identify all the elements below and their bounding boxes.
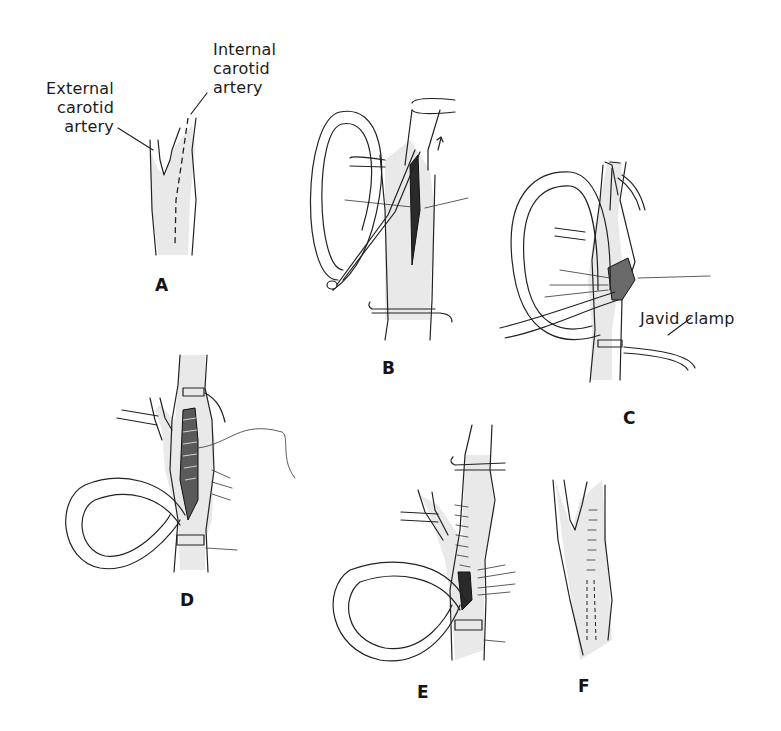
panel-letter-b: B bbox=[382, 358, 395, 378]
panel-f-repaired-artery bbox=[553, 480, 612, 660]
panel-letter-d: D bbox=[180, 590, 194, 610]
panel-d-closure bbox=[66, 355, 295, 572]
panel-letter-e: E bbox=[417, 682, 429, 702]
panel-letter-a: A bbox=[155, 275, 168, 295]
panel-letter-f: F bbox=[578, 676, 590, 696]
javid-clamp-label: Javid clamp bbox=[640, 309, 735, 328]
panel-e-final-closure bbox=[333, 425, 515, 661]
panel-letter-c: C bbox=[623, 408, 635, 428]
panel-b-shunt-insertion bbox=[310, 99, 468, 340]
internal-carotid-label: Internal carotid artery bbox=[213, 40, 276, 97]
external-carotid-label: External carotid artery bbox=[42, 79, 114, 136]
panel-c-endarterectomy bbox=[500, 160, 710, 382]
panel-a-artery bbox=[118, 93, 207, 255]
